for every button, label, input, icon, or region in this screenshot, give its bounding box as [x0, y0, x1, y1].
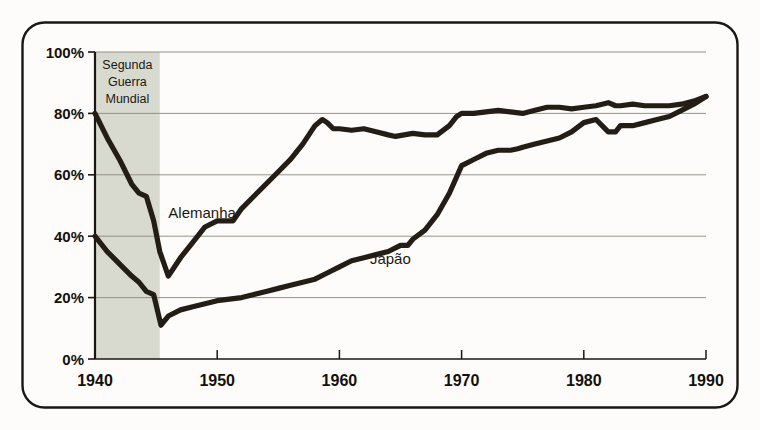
series-label-japan: Japão	[370, 250, 411, 267]
x-axis-tick-label: 1950	[199, 372, 235, 389]
y-axis-tick-label: 80%	[54, 105, 84, 122]
chart-figure: 0%20%40%60%80%100% 194019501960197019801…	[0, 0, 760, 430]
x-axis-tick-label: 1980	[566, 372, 602, 389]
y-axis-tick-label: 60%	[54, 166, 84, 183]
x-axis-tick-label: 1940	[77, 372, 113, 389]
war-band-caption-line: Mundial	[105, 92, 149, 106]
x-axis-tick-label: 1970	[444, 372, 480, 389]
war-band-caption: SegundaGuerraMundial	[102, 58, 152, 106]
war-band-caption-line: Guerra	[108, 75, 147, 89]
y-axis-tick-label: 0%	[62, 351, 84, 368]
series-label-germany: Alemanha	[168, 204, 236, 221]
war-band-caption-line: Segunda	[102, 58, 152, 72]
y-axis-tick-label: 20%	[54, 289, 84, 306]
y-axis-tick-label: 100%	[46, 44, 84, 61]
chart-svg: 0%20%40%60%80%100% 194019501960197019801…	[0, 0, 760, 430]
x-axis-tick-label: 1990	[688, 372, 724, 389]
x-axis-tick-label: 1960	[322, 372, 358, 389]
y-axis-tick-label: 40%	[54, 228, 84, 245]
